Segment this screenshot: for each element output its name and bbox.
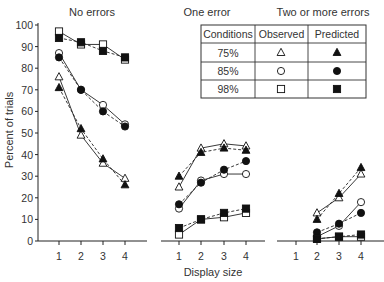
y-tick-label: 10 <box>21 213 33 225</box>
legend-condition: 98% <box>217 83 238 95</box>
series-open-triangle <box>55 73 129 182</box>
filled-circle-marker <box>77 86 84 93</box>
open-circle-marker <box>277 67 284 74</box>
x-tick-label: 2 <box>78 250 84 262</box>
observed-line <box>59 77 125 179</box>
observed-line <box>59 53 125 124</box>
y-tick-label: 0 <box>27 235 33 247</box>
y-tick-label: 60 <box>21 105 33 117</box>
filled-square-marker <box>313 235 320 242</box>
series-open-triangle <box>175 140 250 190</box>
filled-circle-marker <box>220 166 227 173</box>
x-tick-label: 4 <box>243 250 249 262</box>
x-tick-label: 3 <box>336 250 342 262</box>
filled-circle-marker <box>242 157 249 164</box>
x-tick-label: 1 <box>56 250 62 262</box>
open-square-marker <box>277 85 284 92</box>
filled-square-marker <box>220 209 227 216</box>
x-tick-label: 4 <box>358 250 364 262</box>
filled-square-marker <box>99 47 106 54</box>
x-tick-label: 4 <box>122 250 128 262</box>
filled-square-marker <box>333 85 340 92</box>
legend-header: Predicted <box>315 28 360 40</box>
x-tick-label: 1 <box>293 250 299 262</box>
y-tick-label: 90 <box>21 41 33 53</box>
filled-circle-marker <box>121 123 128 130</box>
series-filled-triangle <box>55 83 129 187</box>
filled-triangle-marker <box>99 155 107 162</box>
x-axis-label: Display size <box>184 266 243 278</box>
filled-triangle-marker <box>175 172 183 179</box>
filled-circle-marker <box>335 220 342 227</box>
panel-title: Two or more errors <box>277 6 370 18</box>
x-tick-label: 1 <box>176 250 182 262</box>
y-axis-label: Percent of trials <box>3 91 15 168</box>
panel-title: No errors <box>69 6 115 18</box>
filled-square-marker <box>55 34 62 41</box>
filled-circle-marker <box>333 67 340 74</box>
series-open-square <box>55 28 128 63</box>
filled-circle-marker <box>99 108 106 115</box>
predicted-line <box>59 38 125 57</box>
legend-header: Conditions <box>203 28 253 40</box>
panel-title: One error <box>183 6 230 18</box>
open-triangle-marker <box>55 73 63 80</box>
predicted-line <box>179 161 246 204</box>
filled-circle-marker <box>175 201 182 208</box>
legend-condition: 75% <box>217 47 238 59</box>
series-filled-square <box>55 34 128 61</box>
y-tick-label: 100 <box>15 19 33 31</box>
open-circle-marker <box>242 170 249 177</box>
legend-header: Observed <box>259 28 305 40</box>
filled-square-marker <box>175 224 182 231</box>
y-tick-label: 70 <box>21 84 33 96</box>
open-triangle-marker <box>175 183 183 190</box>
series-open-circle <box>55 49 128 127</box>
filled-circle-marker <box>55 54 62 61</box>
x-tick-label: 3 <box>100 250 106 262</box>
observed-line <box>179 144 246 187</box>
x-tick-label: 2 <box>314 250 320 262</box>
y-tick-label: 20 <box>21 192 33 204</box>
legend-condition: 85% <box>217 65 238 77</box>
chart: 0102030405060708090100123412341234 No er… <box>0 0 384 282</box>
observed-line <box>317 202 361 237</box>
series-open-circle <box>175 170 249 212</box>
open-circle-marker <box>357 199 364 206</box>
filled-circle-marker <box>197 179 204 186</box>
filled-triangle-marker <box>335 189 343 196</box>
observed-line <box>179 174 246 209</box>
filled-square-marker <box>335 233 342 240</box>
y-tick-label: 40 <box>21 149 33 161</box>
legend-table: ConditionsObservedPredicted75%85%98% <box>201 25 366 98</box>
filled-square-marker <box>121 54 128 61</box>
y-tick-label: 80 <box>21 62 33 74</box>
filled-square-marker <box>357 231 364 238</box>
panel-titles: No errorsOne errorTwo or more errors <box>69 6 370 18</box>
filled-triangle-marker <box>357 163 365 170</box>
observed-line <box>59 31 125 59</box>
filled-circle-marker <box>357 209 364 216</box>
y-tick-label: 50 <box>21 127 33 139</box>
filled-square-marker <box>197 216 204 223</box>
series-open-square <box>175 209 249 238</box>
filled-square-marker <box>242 205 249 212</box>
x-tick-label: 2 <box>198 250 204 262</box>
predicted-line <box>179 148 246 176</box>
y-tick-label: 30 <box>21 170 33 182</box>
filled-square-marker <box>77 39 84 46</box>
series-filled-circle <box>175 157 249 207</box>
x-tick-label: 3 <box>221 250 227 262</box>
